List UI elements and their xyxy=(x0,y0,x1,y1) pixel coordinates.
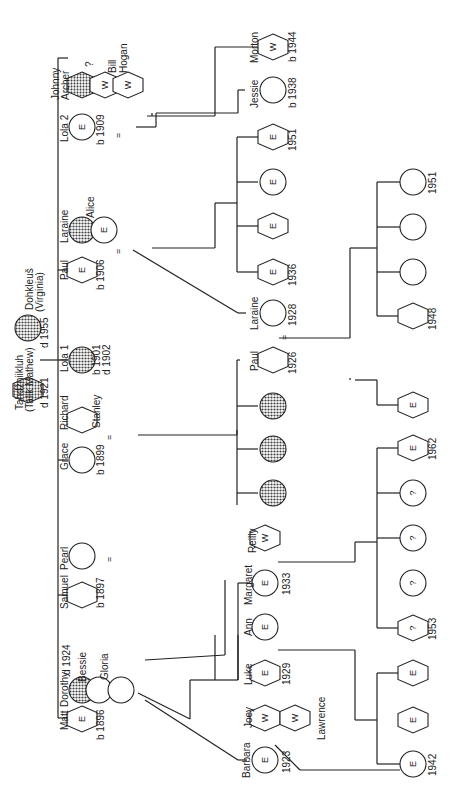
svg-text:Bill: Bill xyxy=(107,60,118,73)
svg-text:1951: 1951 xyxy=(287,128,298,151)
svg-text:Samuel: Samuel xyxy=(59,575,70,609)
svg-text:1926: 1926 xyxy=(287,351,298,374)
svg-text:?: ? xyxy=(84,61,95,67)
svg-text:E: E xyxy=(408,761,418,767)
svg-text:Joey: Joey xyxy=(243,707,254,728)
deceased-circle-icon-child3 xyxy=(260,393,286,419)
female-circle-icon-jessie xyxy=(260,77,286,103)
svg-text:E: E xyxy=(268,269,278,275)
founder-mother xyxy=(15,315,41,341)
svg-text:E: E xyxy=(260,624,270,630)
svg-text:Margaret: Margaret xyxy=(243,565,254,605)
svg-text:E: E xyxy=(268,179,278,185)
svg-text:W: W xyxy=(268,42,278,51)
svg-text:1923: 1923 xyxy=(281,750,292,773)
svg-text:b 1944: b 1944 xyxy=(287,31,298,62)
svg-text:E: E xyxy=(268,134,278,140)
svg-text:=: = xyxy=(279,335,289,340)
female-circle-icon-gloria xyxy=(108,677,134,703)
svg-text:1962: 1962 xyxy=(427,437,438,460)
inner-markers: E E E E W W E W W E E E W E E E E W E E … xyxy=(77,42,418,767)
genealogy-diagram: E E E E W W E W W E E E W E E E E W E E … xyxy=(0,0,457,803)
female-circle-icon-1951 xyxy=(400,169,426,195)
svg-text:=: = xyxy=(104,557,114,562)
female-circle-icon-pearl xyxy=(69,543,95,569)
svg-text:Barbara: Barbara xyxy=(241,742,252,778)
svg-text:E: E xyxy=(260,670,270,676)
svg-text:1929: 1929 xyxy=(281,662,292,685)
male-hexagon-icon-1948 xyxy=(398,303,428,329)
svg-text:Lola 1: Lola 1 xyxy=(59,344,70,372)
svg-text:?: ? xyxy=(408,580,418,585)
svg-text:Lola 2: Lola 2 xyxy=(59,114,70,142)
svg-text:b 1896: b 1896 xyxy=(95,709,106,740)
svg-text:1936: 1936 xyxy=(287,263,298,286)
svg-text:?: ? xyxy=(408,490,418,495)
male-hexagon-icon-samuel xyxy=(67,582,97,608)
svg-text:Laraine: Laraine xyxy=(249,296,260,330)
svg-text:b 1899: b 1899 xyxy=(95,444,106,475)
svg-text:?: ? xyxy=(408,535,418,540)
svg-text:E: E xyxy=(260,580,270,586)
svg-text:W: W xyxy=(260,713,270,722)
svg-text:Alice: Alice xyxy=(85,196,96,218)
svg-text:Paul: Paul xyxy=(249,351,260,371)
svg-text:Laraine: Laraine xyxy=(59,209,70,243)
svg-text:b 1897: b 1897 xyxy=(95,577,106,608)
deceased-circle-icon-child1 xyxy=(260,480,286,506)
svg-text:b 1938: b 1938 xyxy=(287,77,298,108)
svg-text:(Talik Mathew): (Talik Mathew) xyxy=(24,348,35,412)
svg-text:Gloria: Gloria xyxy=(99,653,110,680)
svg-text:E: E xyxy=(408,717,418,723)
svg-text:b 1906: b 1906 xyxy=(95,259,106,290)
svg-text:Grace: Grace xyxy=(59,442,70,470)
svg-text:Archer: Archer xyxy=(60,70,71,100)
svg-text:d 1955: d 1955 xyxy=(39,317,50,348)
svg-text:Bessie: Bessie xyxy=(77,652,88,682)
svg-text:=: = xyxy=(104,435,114,440)
svg-text:d 1902: d 1902 xyxy=(101,344,112,375)
svg-text:E: E xyxy=(77,716,87,722)
svg-text:1942: 1942 xyxy=(427,753,438,776)
svg-text:Hogan: Hogan xyxy=(118,44,129,73)
svg-text:Stanley: Stanley xyxy=(91,395,102,428)
female-circle-icon-laraine-1928 xyxy=(260,300,286,326)
svg-text:d 1924: d 1924 xyxy=(61,644,72,675)
deceased-circle-icon-child2 xyxy=(260,436,286,462)
svg-text:Richard: Richard xyxy=(59,396,70,430)
svg-text:W: W xyxy=(123,80,133,89)
svg-text:1928: 1928 xyxy=(287,303,298,326)
svg-text:Dorothy: Dorothy xyxy=(59,672,70,707)
name-labels: Tahdžniikluh (Talik Mathew) d 1921 Dohkl… xyxy=(14,31,438,778)
svg-text:W: W xyxy=(290,713,300,722)
svg-text:E: E xyxy=(408,402,418,408)
svg-text:E: E xyxy=(408,670,418,676)
svg-text:Ann: Ann xyxy=(243,618,254,636)
female-circle-icon-g4b xyxy=(400,214,426,240)
svg-text:W: W xyxy=(260,533,270,542)
svg-text:b 1909: b 1909 xyxy=(95,114,106,145)
svg-text:Lawrence: Lawrence xyxy=(316,696,327,740)
svg-text:Pearl: Pearl xyxy=(59,547,70,570)
svg-text:=: = xyxy=(113,133,123,138)
svg-text:E: E xyxy=(408,445,418,451)
svg-text:Paul: Paul xyxy=(59,260,70,280)
svg-text:E: E xyxy=(260,757,270,763)
svg-text:E: E xyxy=(77,267,87,273)
svg-text:1953: 1953 xyxy=(427,617,438,640)
female-circle-icon-grace xyxy=(69,447,95,473)
svg-text:W: W xyxy=(100,80,110,89)
svg-text:?: ? xyxy=(408,625,418,630)
svg-text:1951: 1951 xyxy=(427,171,438,194)
svg-text:Reilly: Reilly xyxy=(247,529,258,553)
svg-text:1933: 1933 xyxy=(281,572,292,595)
svg-text:Matt: Matt xyxy=(59,710,70,730)
deceased-female-circle-icon xyxy=(15,315,41,341)
svg-text:Luke: Luke xyxy=(243,663,254,685)
svg-text:Morton: Morton xyxy=(249,32,260,63)
svg-text:E: E xyxy=(268,223,278,229)
svg-text:E: E xyxy=(77,124,87,130)
svg-text:E: E xyxy=(99,227,109,233)
svg-text:(Virginia): (Virginia) xyxy=(34,272,45,312)
svg-text:d 1921: d 1921 xyxy=(39,377,50,408)
